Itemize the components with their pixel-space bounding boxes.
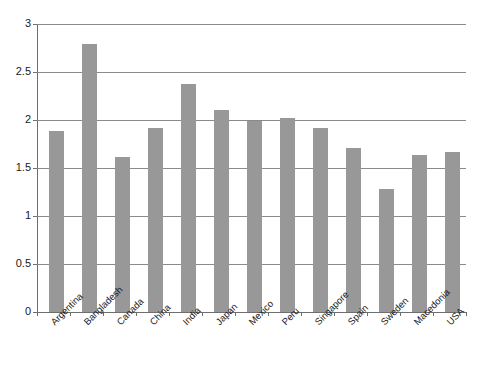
y-axis-tick-label: 2.5 xyxy=(16,66,31,77)
plot-area xyxy=(37,24,466,312)
bar xyxy=(49,131,64,312)
bar xyxy=(445,152,460,312)
y-axis-tick-label: 1.5 xyxy=(16,162,31,173)
bar xyxy=(412,155,427,312)
gridline xyxy=(37,72,466,73)
y-axis-tick-label: 0 xyxy=(25,306,31,317)
gridline xyxy=(37,24,466,25)
bar xyxy=(214,110,229,312)
bar-chart: 00.511.522.53 ArgentinaBangladeshCanadaC… xyxy=(0,0,480,384)
bar xyxy=(247,121,262,312)
bar xyxy=(280,118,295,312)
bar xyxy=(346,148,361,312)
bar xyxy=(181,84,196,312)
y-axis-tick-labels: 00.511.522.53 xyxy=(0,0,31,384)
bar xyxy=(379,189,394,312)
y-axis-tick-label: 2 xyxy=(25,114,31,125)
x-axis-tick-mark xyxy=(37,312,38,316)
bar xyxy=(313,128,328,312)
y-axis-tick-label: 3 xyxy=(25,18,31,29)
bar xyxy=(148,128,163,312)
y-axis-tick-label: 0.5 xyxy=(16,258,31,269)
bar xyxy=(82,44,97,312)
y-axis-tick-label: 1 xyxy=(25,210,31,221)
